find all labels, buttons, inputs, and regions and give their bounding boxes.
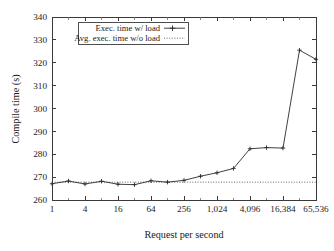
y-tick-label: 270 (33, 172, 47, 182)
data-point-marker (149, 179, 153, 183)
x-tick-label: 16,384 (270, 204, 296, 214)
x-tick-label: 16 (113, 204, 123, 214)
chart-figure: 260270280290300310320330340 1416642561,0… (0, 0, 334, 251)
data-point-marker (50, 182, 54, 186)
data-point-marker (99, 179, 103, 183)
data-point-marker (198, 174, 202, 178)
x-tick-label: 4,096 (240, 204, 261, 214)
x-tick-label: 4 (83, 204, 88, 214)
data-point-marker (314, 57, 318, 61)
x-tick-label: 1,024 (207, 204, 228, 214)
y-tick-label: 330 (33, 35, 47, 45)
y-tick-label: 290 (33, 127, 47, 137)
data-point-marker (116, 182, 120, 186)
data-point-marker (165, 180, 169, 184)
y-tick-label: 300 (33, 104, 47, 114)
x-axis: 1416642561,0244,09616,38465,536 (50, 17, 329, 214)
y-tick-label: 260 (33, 195, 47, 205)
exec-time-polyline (52, 50, 316, 185)
y-tick-label: 310 (33, 81, 47, 91)
y-axis-title: Compile time (s) (10, 74, 22, 143)
x-tick-label: 1 (50, 204, 55, 214)
data-point-marker (297, 48, 301, 52)
data-point-marker (264, 145, 268, 149)
chart-legend: Exec. time w/ load Avg. exec. time w/o l… (74, 22, 188, 44)
plot-frame (52, 17, 316, 200)
y-tick-label: 340 (33, 12, 47, 22)
series-exec-time-with-load (50, 48, 318, 187)
legend-label-exec-time-with-load: Exec. time w/ load (96, 23, 161, 33)
y-tick-label: 280 (33, 149, 47, 159)
data-point-marker (215, 171, 219, 175)
x-tick-label: 64 (146, 204, 156, 214)
legend-label-avg-exec-time-without-load: Avg. exec. time w/o load (74, 33, 160, 43)
chart-canvas: 260270280290300310320330340 1416642561,0… (0, 0, 334, 251)
data-point-marker (132, 182, 136, 186)
y-tick-label: 320 (33, 58, 47, 68)
x-tick-label: 256 (177, 204, 191, 214)
x-axis-title: Request per second (144, 229, 223, 240)
data-point-marker (66, 179, 70, 183)
x-tick-label: 65,536 (303, 204, 329, 214)
data-point-marker (281, 146, 285, 150)
